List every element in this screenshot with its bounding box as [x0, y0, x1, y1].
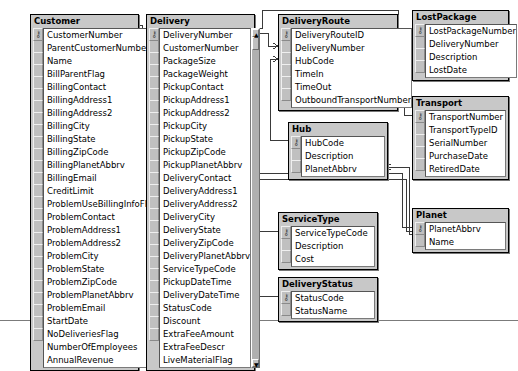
field-name[interactable]: DeliveryPlanetAbbrv — [160, 250, 250, 263]
table-hub[interactable]: Hub⚷HubCodeDescriptionPlanetAbbrv — [288, 122, 388, 180]
field-name[interactable]: PackageWeight — [160, 68, 250, 81]
field-name[interactable]: PickupCity — [160, 120, 250, 133]
field-name[interactable]: DeliveryNumber — [160, 29, 250, 42]
field-list[interactable]: ServiceTypeCodeDescriptionCost — [291, 226, 375, 267]
field-name[interactable]: OutboundTransportNumber — [292, 94, 411, 107]
primary-key-icon[interactable]: ⚷ — [281, 226, 291, 239]
field-name[interactable]: ProblemAddress2 — [44, 237, 158, 250]
field-name[interactable]: BillParentFlag — [44, 68, 158, 81]
field-name[interactable]: TimeIn — [292, 68, 411, 81]
field-name[interactable]: StatusCode — [160, 302, 250, 315]
field-name[interactable]: TransportTypeID — [426, 124, 505, 137]
field-name[interactable]: PlanetAbbrv — [426, 223, 505, 236]
field-name[interactable]: LostDate — [426, 64, 516, 77]
row-selector-gutter[interactable]: ⚷ — [33, 28, 43, 368]
row-selector-gutter[interactable]: ⚷ — [281, 28, 291, 108]
table-transport[interactable]: Transport⚷TransportNumberTransportTypeID… — [412, 96, 509, 180]
scroll-down-arrow-icon[interactable]: ▼ — [252, 359, 259, 367]
field-name[interactable]: DeliveryDateTime — [160, 289, 250, 302]
field-name[interactable]: CustomerNumber — [44, 29, 158, 42]
primary-key-icon[interactable]: ⚷ — [281, 291, 291, 304]
table-deliverystatus[interactable]: DeliveryStatus⚷StatusCodeStatusName — [278, 277, 378, 322]
row-selector[interactable] — [291, 160, 301, 173]
field-name[interactable]: DeliveryNumber — [426, 38, 516, 51]
primary-key-icon[interactable]: ⚷ — [291, 136, 301, 149]
row-selector[interactable] — [281, 250, 291, 263]
field-name[interactable]: StatusCode — [292, 292, 374, 305]
row-selector-gutter[interactable]: ⚷ — [281, 226, 291, 267]
field-name[interactable]: LiveMaterialFlag — [160, 354, 250, 367]
field-name[interactable]: DeliveryNumber — [292, 42, 411, 55]
field-name[interactable]: BillingAddress1 — [44, 94, 158, 107]
field-name[interactable]: PurchaseDate — [426, 150, 505, 163]
vertical-scrollbar[interactable]: ▲▼ — [251, 28, 260, 368]
row-selector[interactable] — [415, 234, 425, 247]
field-name[interactable]: Description — [426, 51, 516, 64]
table-customer[interactable]: Customer⚷CustomerNumberParentCustomerNum… — [30, 14, 139, 371]
field-name[interactable]: BillingEmail — [44, 172, 158, 185]
field-name[interactable]: NoDeliveriesFlag — [44, 328, 158, 341]
field-name[interactable]: ProblemAddress1 — [44, 224, 158, 237]
field-name[interactable]: CreditLimit — [44, 185, 158, 198]
field-name[interactable]: ExtraFeeAmount — [160, 328, 250, 341]
row-selector-gutter[interactable]: ⚷ — [415, 110, 425, 177]
field-name[interactable]: DeliveryAddress1 — [160, 185, 250, 198]
primary-key-icon[interactable]: ⚷ — [415, 24, 425, 37]
field-name[interactable]: RetiredDate — [426, 163, 505, 176]
field-name[interactable]: SerialNumber — [426, 137, 505, 150]
field-name[interactable]: BillingState — [44, 133, 158, 146]
field-name[interactable]: PickupAddress2 — [160, 107, 250, 120]
field-name[interactable]: BillingPlanetAbbrv — [44, 159, 158, 172]
field-name[interactable]: Discount — [160, 315, 250, 328]
field-name[interactable]: DeliveryZipCode — [160, 237, 250, 250]
field-name[interactable]: ProblemPlanetAbbrv — [44, 289, 158, 302]
row-selector[interactable] — [415, 60, 425, 73]
row-selector-gutter[interactable]: ⚷ — [291, 136, 301, 177]
table-deliveryroute[interactable]: DeliveryRoute⚷DeliveryRouteIDDeliveryNum… — [278, 14, 398, 111]
field-name[interactable]: ExtraFeeDescr — [160, 341, 250, 354]
field-name[interactable]: ProblemCity — [44, 250, 158, 263]
field-name[interactable]: PickupZipCode — [160, 146, 250, 159]
primary-key-icon[interactable]: ⚷ — [415, 222, 425, 235]
primary-key-icon[interactable]: ⚷ — [33, 28, 43, 41]
row-selector[interactable] — [281, 303, 291, 316]
row-selector-gutter[interactable]: ⚷ — [149, 28, 159, 368]
row-selector[interactable] — [33, 328, 43, 341]
field-name[interactable]: CustomerNumber — [160, 42, 250, 55]
field-name[interactable]: ProblemZipCode — [44, 276, 158, 289]
field-list[interactable]: StatusCodeStatusName — [291, 291, 375, 319]
field-name[interactable]: PickupPlanetAbbrv — [160, 159, 250, 172]
field-name[interactable]: Name — [44, 55, 158, 68]
field-list[interactable]: CustomerNumberParentCustomerNumberNameBi… — [43, 28, 159, 368]
field-name[interactable]: DeliveryCity — [160, 211, 250, 224]
field-name[interactable]: DeliveryState — [160, 224, 250, 237]
scroll-up-arrow-icon[interactable]: ▲ — [252, 29, 259, 37]
field-name[interactable]: StatusName — [292, 305, 374, 318]
field-list[interactable]: DeliveryRouteIDDeliveryNumberHubCodeTime… — [291, 28, 412, 108]
field-list[interactable]: LostPackageNumberDeliveryNumberDescripti… — [425, 24, 517, 78]
field-name[interactable]: TransportNumber — [426, 111, 505, 124]
field-name[interactable]: DeliveryRouteID — [292, 29, 411, 42]
field-name[interactable]: Cost — [292, 253, 374, 266]
field-list[interactable]: TransportNumberTransportTypeIDSerialNumb… — [425, 110, 506, 177]
field-name[interactable]: PlanetAbbrv — [302, 163, 384, 176]
field-name[interactable]: DeliveryAddress2 — [160, 198, 250, 211]
field-name[interactable]: HubCode — [302, 137, 384, 150]
field-name[interactable]: BillingContact — [44, 81, 158, 94]
field-name[interactable]: ServiceTypeCode — [160, 263, 250, 276]
row-selector[interactable] — [281, 88, 291, 101]
field-name[interactable]: Name — [426, 236, 505, 249]
field-name[interactable]: ProblemEmail — [44, 302, 158, 315]
table-delivery[interactable]: Delivery⚷DeliveryNumberCustomerNumberPac… — [146, 14, 255, 371]
field-name[interactable]: DeliveryContact — [160, 172, 250, 185]
field-name[interactable]: PickupDateTime — [160, 276, 250, 289]
field-name[interactable]: ProblemContact — [44, 211, 158, 224]
field-list[interactable]: PlanetAbbrvName — [425, 222, 506, 250]
field-name[interactable]: BillingZipCode — [44, 146, 158, 159]
field-list[interactable]: DeliveryNumberCustomerNumberPackageSizeP… — [159, 28, 251, 368]
field-name[interactable]: StartDate — [44, 315, 158, 328]
field-name[interactable]: LostPackageNumber — [426, 25, 516, 38]
scrollbar-thumb[interactable] — [252, 37, 259, 50]
scrollbar-track[interactable] — [252, 50, 259, 359]
